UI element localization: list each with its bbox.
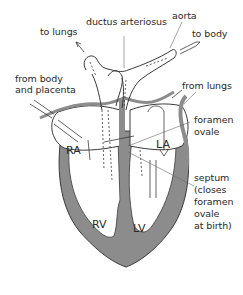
label-aorta: aorta [172, 10, 197, 22]
chamber-label-ra: RA [66, 144, 81, 157]
label-septum-3: foramen [194, 196, 233, 208]
label-from-body-2: and placenta [15, 84, 76, 96]
chamber-label-rv: RV [92, 218, 107, 231]
label-to-lungs: to lungs [40, 26, 77, 38]
septum [122, 98, 124, 262]
label-septum-4: ovale [194, 208, 219, 220]
label-ductus-arteriosus: ductus arteriosus [86, 16, 167, 28]
label-from-lungs: from lungs [182, 80, 232, 92]
chamber-label-la: LA [156, 138, 170, 151]
chamber-label-lv: LV [133, 222, 145, 235]
label-foramen-ovale-1: foramen [194, 114, 233, 126]
label-septum-1: septum [194, 172, 229, 184]
label-septum-2: (closes [194, 184, 226, 196]
label-to-body: to body [192, 28, 227, 40]
heart-diagram [0, 0, 243, 295]
label-septum-5: at birth) [194, 220, 232, 232]
label-foramen-ovale-2: ovale [194, 126, 219, 138]
